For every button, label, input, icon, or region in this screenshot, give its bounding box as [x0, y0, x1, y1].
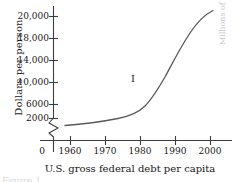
curve-label-annotation: I [131, 74, 135, 84]
neighbor-figure-axis-label-fragment: Millions of persons [218, 0, 227, 45]
x-tick-label: 1970 [85, 146, 125, 156]
x-axis-title: U.S. gross federal debt per capita [30, 163, 230, 174]
x-tick-labels: 0 1960 1970 1980 1990 2000 [0, 0, 238, 182]
chart-figure: Dollars per person 20,000 18,000 14,000 … [0, 0, 238, 182]
x-tick-label: 1980 [120, 146, 160, 156]
x-tick-label: 1990 [155, 146, 195, 156]
x-tick-label: 2000 [190, 146, 230, 156]
x-tick-label: 1960 [50, 146, 90, 156]
figure-caption-fragment: Figure 1 [2, 176, 41, 182]
